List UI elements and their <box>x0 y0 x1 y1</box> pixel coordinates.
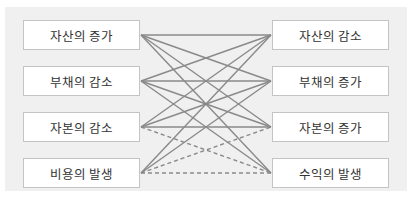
right-box-equity-increase: 자본의 증가 <box>272 112 389 142</box>
right-box-label: 자산의 감소 <box>299 26 361 45</box>
right-box-label: 자본의 증가 <box>299 118 361 137</box>
left-box-asset-increase: 자산의 증가 <box>23 20 140 50</box>
left-box-expense-occurrence: 비용의 발생 <box>23 158 140 188</box>
left-box-label: 비용의 발생 <box>50 164 112 183</box>
left-box-equity-decrease: 자본의 감소 <box>23 112 140 142</box>
right-box-label: 수익의 발생 <box>299 164 361 183</box>
right-box-liability-increase: 부채의 증가 <box>272 66 389 96</box>
right-box-revenue-occurrence: 수익의 발생 <box>272 158 389 188</box>
left-box-label: 자본의 감소 <box>50 118 112 137</box>
connection-line <box>141 127 271 173</box>
right-box-asset-decrease: 자산의 감소 <box>272 20 389 50</box>
left-box-label: 부채의 감소 <box>50 72 112 91</box>
connection-line <box>141 127 271 173</box>
left-box-label: 자산의 증가 <box>50 26 112 45</box>
left-box-liability-decrease: 부채의 감소 <box>23 66 140 96</box>
right-box-label: 부채의 증가 <box>299 72 361 91</box>
